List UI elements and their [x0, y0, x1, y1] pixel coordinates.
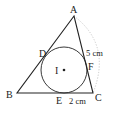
label-c: C — [95, 92, 102, 103]
triangle-incircle-figure: A B C D E F I 5 cm 2 cm — [0, 0, 123, 123]
label-i: I — [55, 65, 58, 76]
label-d: D — [39, 48, 46, 59]
center-point-i — [63, 69, 66, 72]
label-b: B — [6, 89, 13, 100]
label-e: E — [56, 95, 62, 106]
diagram-canvas: A B C D E F I 5 cm 2 cm — [0, 0, 123, 123]
label-a: A — [70, 4, 78, 15]
label-f: F — [88, 61, 94, 72]
measurement-af: 5 cm — [86, 48, 103, 58]
triangle-abc — [17, 16, 93, 93]
measurement-ec: 2 cm — [69, 96, 86, 106]
